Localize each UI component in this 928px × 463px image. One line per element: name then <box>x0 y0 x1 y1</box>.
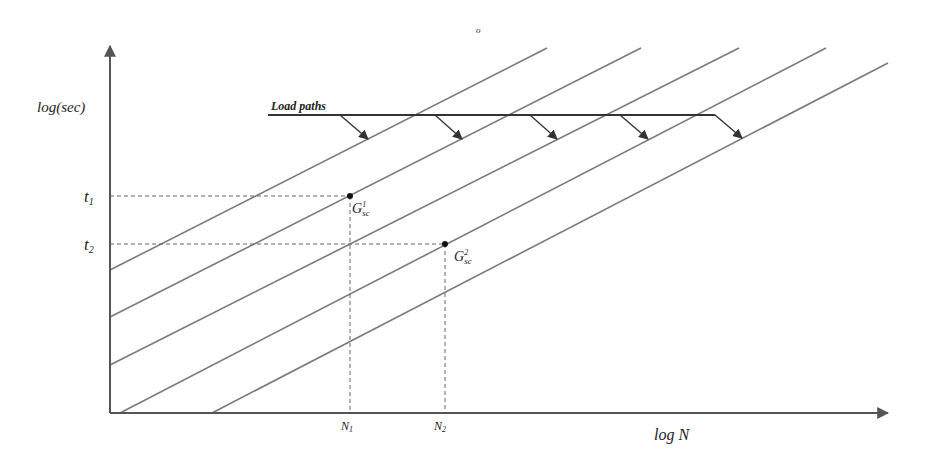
n1-sub: 1 <box>349 425 353 434</box>
load-path-arrow-5 <box>715 115 742 138</box>
g1-sub: sc <box>362 208 370 218</box>
load-path-arrow-1 <box>340 115 368 139</box>
load-paths: Load paths <box>268 99 742 139</box>
point-g2 <box>442 241 448 247</box>
g1-base: G <box>352 201 362 216</box>
point-g1 <box>347 193 353 199</box>
n2-sub: 2 <box>442 425 446 434</box>
sn-curve-4 <box>120 48 826 413</box>
sn-curve-3 <box>110 48 739 365</box>
sn-curve-2 <box>110 48 641 317</box>
t2-sub: 2 <box>89 244 94 255</box>
x-axis-label: log N <box>654 426 690 444</box>
sn-diagram: Load paths log(sec) log N o t1 t2 N1 N2 … <box>0 0 928 463</box>
load-path-arrow-4 <box>620 115 648 139</box>
n1-label: N1 <box>340 419 353 434</box>
g1-label: G1sc <box>352 200 370 218</box>
t2-label: t2 <box>84 235 94 255</box>
t1-sub: 1 <box>89 196 94 207</box>
sn-curve-1 <box>110 48 547 270</box>
t1-label: t1 <box>84 187 94 207</box>
g2-sub: sc <box>464 256 472 266</box>
stray-mark: o <box>476 25 481 35</box>
load-path-arrow-3 <box>530 115 557 139</box>
g2-base: G <box>454 249 464 264</box>
g2-label: G2sc <box>454 248 472 266</box>
load-paths-label: Load paths <box>270 99 326 113</box>
guide-lines <box>110 196 445 413</box>
load-path-arrow-2 <box>435 115 462 139</box>
n2-label: N2 <box>433 419 446 434</box>
sn-curves <box>110 48 888 413</box>
y-axis-label: log(sec) <box>37 99 85 116</box>
